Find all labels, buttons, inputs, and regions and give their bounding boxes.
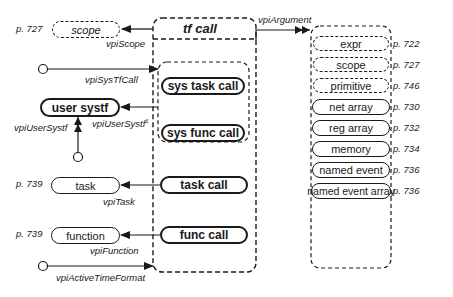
arg-expr-page: p. 722 (393, 38, 419, 49)
sys-func-call-label: sys func call (167, 126, 239, 140)
vpiActiveTimeFormat-label: vpiActiveTimeFormat (56, 272, 145, 283)
scope-node[interactable]: scope (52, 21, 120, 38)
function-page-ref: p. 739 (16, 228, 42, 239)
arg-net-array-page: p. 730 (393, 101, 419, 112)
sys-func-call-node[interactable]: sys func call (161, 124, 245, 142)
function-node[interactable]: function (51, 227, 120, 244)
scope-label: scope (71, 24, 100, 36)
user-systf-node[interactable]: user systf (40, 98, 120, 117)
arg-named-event-node[interactable]: named event (312, 162, 390, 178)
task-call-label: task call (180, 178, 227, 192)
arg-named-event-array-page: p. 736 (393, 185, 419, 196)
arg-reg-array-page: p. 732 (393, 122, 419, 133)
vpiScope-label: vpiScope (106, 38, 145, 49)
vpiSysTfCall-label: vpiSysTfCall (85, 74, 138, 85)
arg-reg-array-label: reg array (329, 122, 373, 134)
arg-primitive-label: primitive (331, 80, 372, 92)
arg-scope-label: scope (336, 59, 365, 71)
footnote-marker: 1 (145, 118, 148, 124)
arg-memory-page: p. 734 (393, 143, 419, 154)
arg-memory-node[interactable]: memory (312, 141, 390, 157)
arg-named-event-label: named event (319, 164, 383, 176)
scope-page-ref: p. 727 (16, 23, 42, 34)
arg-expr-label: expr (340, 38, 361, 50)
vpiUserSystf-out-label: vpiUserSystf1 (92, 118, 149, 129)
task-page-ref: p. 739 (16, 178, 42, 189)
sys-task-call-label: sys task call (168, 79, 239, 93)
arg-scope-page: p. 727 (393, 59, 419, 70)
task-node[interactable]: task (51, 177, 120, 194)
arg-primitive-page: p. 746 (393, 80, 419, 91)
arg-net-array-label: net array (329, 101, 372, 113)
arg-named-event-page: p. 736 (393, 164, 419, 175)
func-call-label: func call (180, 228, 229, 242)
task-call-node[interactable]: task call (160, 176, 248, 194)
vpiFunction-label: vpiFunction (90, 245, 139, 256)
user-systf-label: user systf (52, 101, 109, 115)
arg-primitive-node[interactable]: primitive (313, 78, 389, 93)
arg-expr-node[interactable]: expr (313, 36, 389, 51)
func-call-node[interactable]: func call (160, 226, 248, 244)
task-label: task (75, 180, 95, 192)
arg-named-event-array-label: named event array (307, 185, 395, 197)
arg-net-array-node[interactable]: net array (312, 99, 390, 115)
vpiUserSystf-in-label: vpiUserSystf (14, 122, 67, 133)
sys-task-call-node[interactable]: sys task call (161, 77, 245, 95)
tf-call-title: tf call (183, 21, 217, 36)
vpiTask-label: vpiTask (103, 196, 135, 207)
arg-named-event-array-node[interactable]: named event array (311, 183, 391, 199)
arg-scope-node[interactable]: scope (313, 57, 389, 72)
arg-memory-label: memory (331, 143, 371, 155)
vpiArgument-label: vpiArgument (258, 14, 311, 25)
arg-reg-array-node[interactable]: reg array (312, 120, 390, 136)
function-label: function (66, 230, 105, 242)
